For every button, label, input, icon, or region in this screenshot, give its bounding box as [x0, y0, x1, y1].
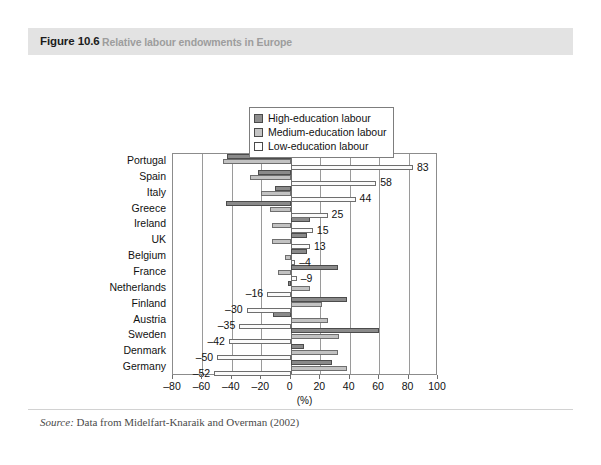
data-label-uk: 13 [314, 241, 326, 252]
x-tick-label: 60 [372, 381, 384, 392]
data-label-italy: 44 [360, 193, 372, 204]
x-tick-label: 80 [402, 381, 414, 392]
legend-item-low[interactable]: Low-education labour [254, 140, 386, 153]
gridline--60 [202, 154, 203, 374]
data-label-portugal: 83 [417, 162, 429, 173]
data-label-finland: –30 [225, 304, 243, 315]
bar-netherlands-medium [291, 286, 310, 291]
bar-germany-high [291, 360, 332, 365]
category-label-uk: UK [151, 234, 166, 245]
bar-belgium-low [291, 260, 295, 265]
data-label-belgium: –4 [299, 257, 311, 268]
category-label-sweden: Sweden [128, 329, 166, 340]
legend-swatch-low-icon [254, 142, 263, 151]
bar-greece-medium [270, 207, 291, 212]
legend-item-label: High-education labour [268, 113, 371, 124]
x-axis-ticks: –80–60–40–20020406080100 [172, 375, 437, 380]
x-tick-label: 20 [313, 381, 325, 392]
bar-uk-low [291, 244, 310, 249]
category-label-netherlands: Netherlands [109, 282, 166, 293]
x-tick-label: 100 [428, 381, 446, 392]
gridline-40 [350, 154, 351, 374]
x-tick-label: –60 [193, 381, 211, 392]
bar-greece-low [291, 213, 328, 218]
category-label-denmark: Denmark [123, 345, 166, 356]
bar-ireland-high [291, 217, 310, 222]
bar-spain-high [258, 170, 290, 175]
bar-france-medium [278, 270, 291, 275]
figure-caption: Relative labour endowments in Europe [102, 36, 292, 48]
bar-italy-low [291, 197, 356, 202]
figure-footer: Source: Data from Midelfart-Knaraik and … [28, 409, 573, 436]
legend-swatch-high-icon [254, 114, 263, 123]
legend-item-label: Low-education labour [268, 141, 368, 152]
category-label-finland: Finland [132, 298, 166, 309]
data-label-netherlands: –16 [246, 288, 264, 299]
x-tick-label: –20 [252, 381, 270, 392]
bar-ireland-medium [272, 223, 291, 228]
bar-belgium-high [291, 249, 307, 254]
bar-portugal-low [291, 165, 413, 170]
legend-swatch-medium-icon [254, 128, 263, 137]
source-body: Data from Midelfart-Knaraik and Overman … [74, 416, 299, 428]
legend-item-high[interactable]: High-education labour [254, 112, 386, 125]
x-tick-60 [378, 375, 379, 379]
category-label-spain: Spain [139, 171, 166, 182]
category-label-portugal: Portugal [127, 155, 166, 166]
bar-denmark-low [217, 355, 291, 360]
x-tick--40 [231, 375, 232, 379]
bar-denmark-medium [291, 350, 338, 355]
category-label-greece: Greece [132, 203, 166, 214]
legend-item-medium[interactable]: Medium-education labour [254, 126, 386, 139]
figure-number: Figure 10.6 [40, 35, 100, 47]
x-tick-label: 40 [343, 381, 355, 392]
bar-france-high [291, 265, 338, 270]
bar-italy-high [275, 186, 291, 191]
y-axis-category-labels: PortugalSpainItalyGreeceIrelandUKBelgium… [28, 153, 166, 375]
bar-portugal-medium [223, 159, 291, 164]
bar-finland-high [291, 297, 347, 302]
bar-uk-high [291, 233, 307, 238]
data-label-austria: –35 [218, 320, 236, 331]
bar-denmark-high [291, 344, 304, 349]
figure-card: Figure 10.6 Relative labour endowments i… [28, 28, 573, 436]
category-label-italy: Italy [147, 187, 166, 198]
bar-austria-medium [291, 318, 328, 323]
bar-finland-low [247, 308, 291, 313]
x-axis-title: (%) [172, 395, 437, 406]
x-tick-label: 0 [287, 381, 293, 392]
category-label-france: France [133, 266, 166, 277]
figure-header: Figure 10.6 Relative labour endowments i… [28, 28, 573, 55]
bar-finland-medium [291, 302, 322, 307]
figure-body: PortugalSpainItalyGreeceIrelandUKBelgium… [28, 55, 573, 409]
bar-sweden-low [229, 339, 291, 344]
category-label-austria: Austria [133, 314, 166, 325]
x-tick--60 [201, 375, 202, 379]
x-tick-label: –80 [163, 381, 181, 392]
x-tick-100 [437, 375, 438, 379]
bar-belgium-medium [285, 255, 291, 260]
bar-netherlands-low [267, 292, 291, 297]
bar-netherlands-high [288, 281, 291, 286]
category-label-belgium: Belgium [128, 250, 166, 261]
source-keyword: Source: [40, 416, 74, 428]
bar-ireland-low [291, 228, 313, 233]
bar-france-low [291, 276, 297, 281]
bar-austria-high [273, 312, 291, 317]
bar-sweden-medium [291, 334, 340, 339]
legend-item-label: Medium-education labour [268, 127, 386, 138]
x-tick-40 [349, 375, 350, 379]
category-label-ireland: Ireland [134, 218, 166, 229]
chart-legend: High-education labourMedium-education la… [249, 107, 394, 158]
x-tick--20 [260, 375, 261, 379]
data-label-greece: 25 [332, 209, 344, 220]
data-label-denmark: –50 [196, 352, 214, 363]
source-note: Source: Data from Midelfart-Knaraik and … [40, 416, 299, 428]
category-label-germany: Germany [123, 361, 166, 372]
plot-area: 835844251513–4–9–16–30–35–42–50–52 [172, 153, 437, 375]
bar-greece-high [226, 201, 291, 206]
bar-italy-medium [261, 191, 290, 196]
x-tick-80 [408, 375, 409, 379]
data-label-sweden: –42 [207, 336, 225, 347]
gridline-80 [409, 154, 410, 374]
